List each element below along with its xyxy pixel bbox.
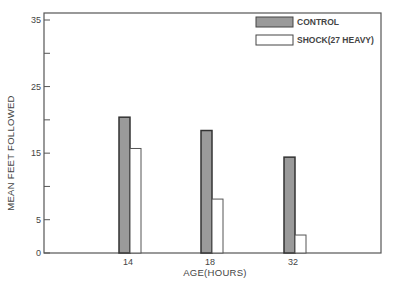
bar-control-14 xyxy=(119,117,130,253)
y-tick-label: 25 xyxy=(31,82,41,92)
legend-swatch-shock xyxy=(256,35,293,45)
bar-control-32 xyxy=(284,157,295,253)
x-tick-label: 18 xyxy=(205,257,215,267)
x-axis: 141832 xyxy=(123,257,298,267)
bar-control-18 xyxy=(201,131,212,253)
legend-swatch-control xyxy=(256,17,293,27)
legend: CONTROL SHOCK(27 HEAVY) xyxy=(256,17,374,45)
x-axis-title: AGE(HOURS) xyxy=(183,267,247,278)
legend-label-control: CONTROL xyxy=(297,17,339,27)
bars xyxy=(119,117,306,253)
bar-shock-18 xyxy=(212,199,223,253)
legend-label-shock: SHOCK(27 HEAVY) xyxy=(297,35,374,45)
y-tick-label: 5 xyxy=(36,215,41,225)
y-tick-label: 0 xyxy=(36,248,41,258)
bar-shock-32 xyxy=(295,235,306,253)
x-tick-label: 14 xyxy=(123,257,133,267)
y-axis-title: MEAN FEET FOLLOWED xyxy=(5,95,16,211)
y-tick-label: 35 xyxy=(31,15,41,25)
x-tick-label: 32 xyxy=(288,257,298,267)
bar-chart: 05152535 141832 AGE(HOURS) MEAN FEET FOL… xyxy=(0,0,394,291)
bar-shock-14 xyxy=(130,148,141,253)
y-tick-label: 15 xyxy=(31,148,41,158)
y-axis: 05152535 xyxy=(31,15,50,258)
